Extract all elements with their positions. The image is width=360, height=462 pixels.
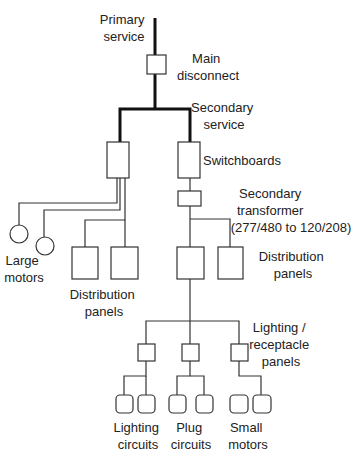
main-disconnect-box <box>147 55 166 74</box>
lighting-panel <box>138 344 155 361</box>
label-main-disconnect: Main disconnect <box>177 51 240 83</box>
distribution-panel-left-2 <box>111 247 138 279</box>
feeder-large-motor-2 <box>44 178 120 238</box>
lighting-circuit-2 <box>138 395 155 413</box>
label-secondary-transformer: Secondary transformer (277/480 to 120/20… <box>231 186 352 235</box>
branch <box>177 361 190 395</box>
label-switchboards: Switchboards <box>203 153 282 168</box>
switchboard-left <box>107 142 129 178</box>
plug-circuit-1 <box>169 395 186 413</box>
label-small-motors: Small motors <box>228 420 268 452</box>
secondary-service-bus <box>120 109 190 142</box>
secondary-transformer-box <box>178 191 201 206</box>
feeder-dp-left-1 <box>85 178 125 248</box>
label-distribution-panels-left: Distribution panels <box>70 287 139 319</box>
distribution-diagram: Primary service Main disconnect Secondar… <box>0 0 360 462</box>
switchboard-right <box>178 142 200 178</box>
plug-circuit-2 <box>196 395 213 413</box>
label-distribution-panels-right: Distribution panels <box>259 249 328 281</box>
branch <box>124 361 146 395</box>
distribution-panel-left-1 <box>72 247 98 279</box>
branch <box>239 361 261 395</box>
label-lighting-circuits: Lighting circuits <box>113 420 162 452</box>
distribution-panel-right-2 <box>218 247 243 279</box>
small-motor-1 <box>230 395 248 413</box>
label-plug-circuits: Plug circuits <box>171 420 212 452</box>
label-secondary-service: Secondary service <box>191 100 257 132</box>
lr-bus <box>146 321 239 344</box>
distribution-panel-right-1 <box>177 247 204 279</box>
label-lighting-receptacle-panels: Lighting / receptacle panels <box>249 320 313 369</box>
feeder-dp-right-2 <box>190 219 230 247</box>
label-primary-service: Primary service <box>100 12 148 44</box>
plug-panel <box>182 344 199 361</box>
small-motor-2 <box>253 395 271 413</box>
motor-panel <box>231 344 248 361</box>
lighting-circuit-1 <box>116 395 133 413</box>
label-large-motors: Large motors <box>4 253 44 285</box>
branch <box>190 376 204 395</box>
large-motor-1 <box>10 225 28 243</box>
